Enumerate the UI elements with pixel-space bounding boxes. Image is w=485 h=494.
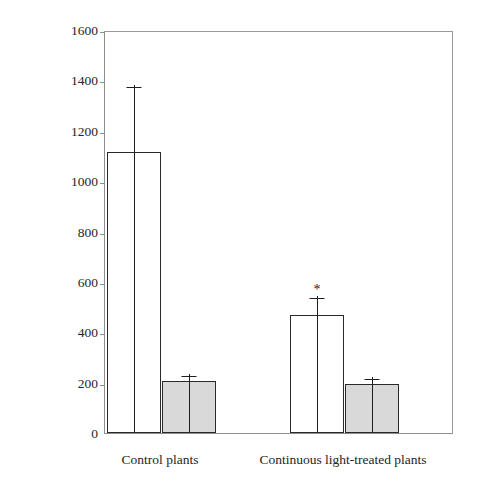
x-axis-category-label: Continuous light-treated plants [259,452,426,468]
y-axis-tick-mark [100,82,105,83]
y-axis-tick-label: 1600 [54,23,98,39]
y-axis-tick-labels: 02004006008001000120014001600 [54,0,98,494]
y-axis-tick-mark [100,32,105,33]
error-bar [134,85,135,433]
y-axis-tick-mark [100,284,105,285]
y-axis-tick-mark [100,133,105,134]
y-axis-tick-mark [100,234,105,235]
plot-inner: * [105,32,452,433]
error-bar-cap [365,379,380,380]
error-bar-cap [127,87,142,88]
figure-container: Leaf stomatal conductance (mmol m-2 s-1)… [0,0,485,494]
error-bar-cap [310,298,325,299]
y-axis-tick-mark [100,385,105,386]
y-axis-tick-label: 1400 [54,73,98,89]
y-axis-tick-mark [100,334,105,335]
y-axis-tick-label: 400 [54,325,98,341]
x-axis-category-label: Control plants [122,452,199,468]
y-axis-tick-label: 1200 [54,124,98,140]
y-axis-tick-label: 0 [54,426,98,442]
y-axis-tick-label: 200 [54,376,98,392]
y-axis-tick-mark [100,183,105,184]
y-axis-tick-label: 800 [54,225,98,241]
significance-marker: * [314,285,321,295]
y-axis-tick-label: 600 [54,275,98,291]
error-bar [189,374,190,433]
plot-area: * [104,31,453,434]
error-bar [317,296,318,433]
y-axis-tick-label: 1000 [54,174,98,190]
error-bar [372,377,373,433]
error-bar-cap [182,376,197,377]
